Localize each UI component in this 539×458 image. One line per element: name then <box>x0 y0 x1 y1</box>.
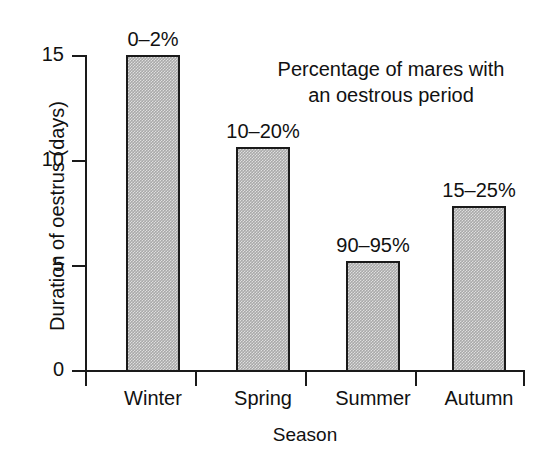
bar-value-label-autumn: 15–25% <box>409 179 539 201</box>
bar-value-label-spring: 10–20% <box>193 120 333 142</box>
x-category-label-autumn: Autumn <box>419 387 539 410</box>
bar-autumn[interactable] <box>452 206 506 372</box>
chart-annotation-line-1: Percentage of mares with <box>252 56 530 82</box>
x-category-label-winter: Winter <box>93 387 213 410</box>
x-axis-title: Season <box>85 424 525 445</box>
bar-value-label-winter: 0–2% <box>93 28 213 50</box>
chart-annotation-line-2: an oestrous period <box>252 82 530 108</box>
chart-annotation: Percentage of mares with an oestrous per… <box>252 56 530 108</box>
bar-chart-figure: Duration of oestrus (days) 15 10 5 0 0–2… <box>0 0 539 458</box>
bar-winter[interactable] <box>126 55 180 372</box>
bar-value-label-summer: 90–95% <box>303 234 443 256</box>
x-category-label-summer: Summer <box>313 387 433 410</box>
bar-summer[interactable] <box>346 261 400 372</box>
x-category-label-spring: Spring <box>203 387 323 410</box>
bar-spring[interactable] <box>236 147 290 372</box>
